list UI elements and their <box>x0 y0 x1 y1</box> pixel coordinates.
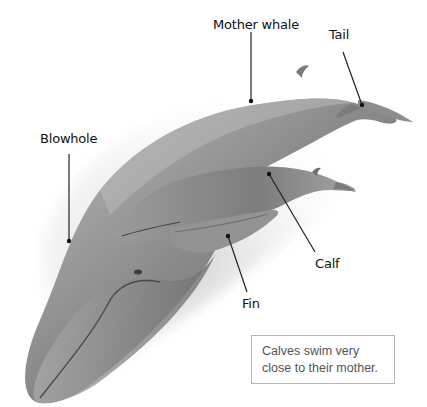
mother-dorsal-fin <box>296 65 309 78</box>
label-mother-whale: Mother whale <box>213 17 299 32</box>
whale-diagram: Mother whale Tail Blowhole Calf Fin Calv… <box>0 0 427 407</box>
caption-line-1: Calves swim very <box>262 343 394 360</box>
caption-line-2: close to their mother. <box>262 360 394 377</box>
label-tail: Tail <box>329 27 349 42</box>
label-blowhole: Blowhole <box>40 131 97 146</box>
label-fin: Fin <box>242 296 260 311</box>
mother-eye <box>134 270 142 275</box>
caption-box: Calves swim very close to their mother. <box>251 335 395 384</box>
label-calf: Calf <box>315 256 339 271</box>
